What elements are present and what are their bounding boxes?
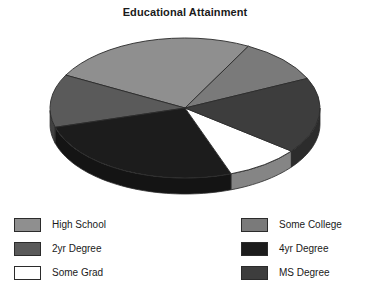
pie-chart-figure: Educational Attainment High School 2yr D… — [0, 0, 370, 300]
legend-column-left: High School 2yr Degree Some Grad — [14, 214, 184, 286]
legend-swatch-ms-degree — [241, 266, 268, 280]
legend-item[interactable]: MS Degree — [241, 262, 370, 286]
legend-item[interactable]: 4yr Degree — [241, 238, 370, 262]
legend-item[interactable]: High School — [14, 214, 184, 238]
legend-item[interactable]: Some Grad — [14, 262, 184, 286]
legend-swatch-2yr-degree — [14, 242, 41, 256]
legend-label-ms-degree: MS Degree — [279, 262, 330, 284]
pie-plot-area — [10, 28, 360, 208]
chart-legend: High School 2yr Degree Some Grad Some Co… — [10, 214, 360, 294]
pie-svg — [10, 28, 360, 208]
pie-slices-group — [50, 38, 320, 178]
legend-label-some-college: Some College — [279, 214, 342, 236]
legend-label-4yr-degree: 4yr Degree — [279, 238, 328, 260]
legend-label-high-school: High School — [52, 214, 106, 236]
legend-label-2yr-degree: 2yr Degree — [52, 238, 101, 260]
legend-label-some-grad: Some Grad — [52, 262, 103, 284]
legend-swatch-some-grad — [14, 266, 41, 280]
legend-item[interactable]: 2yr Degree — [14, 238, 184, 262]
legend-swatch-high-school — [14, 218, 41, 232]
legend-column-right: Some College 4yr Degree MS Degree — [241, 214, 370, 286]
legend-swatch-some-college — [241, 218, 268, 232]
chart-title: Educational Attainment — [0, 6, 370, 18]
legend-swatch-4yr-degree — [241, 242, 268, 256]
legend-item[interactable]: Some College — [241, 214, 370, 238]
